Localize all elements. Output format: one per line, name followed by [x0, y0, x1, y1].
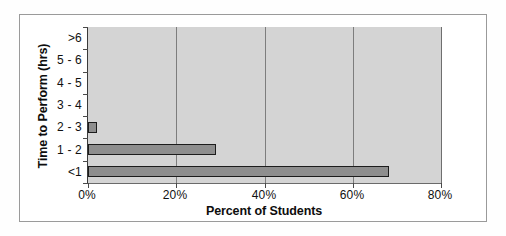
bar-row: [88, 138, 442, 160]
y-tick-label: 2 - 3: [40, 116, 86, 138]
bar-lt1: [88, 166, 389, 177]
x-tick-label: 60%: [340, 188, 365, 202]
y-tick-label: <1: [40, 161, 86, 183]
bar-row: [88, 49, 442, 71]
y-tick-label: 5 - 6: [40, 49, 86, 71]
x-axis-tick-labels: 0% 20% 40% 60% 80%: [87, 188, 441, 204]
x-axis-title: Percent of Students: [87, 204, 441, 218]
y-tick-label: 3 - 4: [40, 94, 86, 116]
bar-row: [88, 94, 442, 116]
y-tick-label: >6: [40, 27, 86, 49]
x-tick-label: 40%: [252, 188, 277, 202]
bar-row: [88, 161, 442, 183]
bar-series: [88, 27, 442, 183]
bar-row: [88, 116, 442, 138]
x-tick-label: 0%: [78, 188, 96, 202]
bar-1-2: [88, 144, 216, 155]
bar-row: [88, 72, 442, 94]
x-tick-label: 80%: [428, 188, 453, 202]
y-axis-tick-labels: >6 5 - 6 4 - 5 3 - 4 2 - 3 1 - 2 <1: [40, 27, 86, 183]
bar-row: [88, 27, 442, 49]
chart-figure: Time to Perform (hrs) >6 5 - 6 4 - 5 3 -…: [0, 0, 506, 236]
y-tick-label: 4 - 5: [40, 72, 86, 94]
chart-frame: Time to Perform (hrs) >6 5 - 6 4 - 5 3 -…: [19, 14, 487, 222]
bar-2-3: [88, 122, 97, 133]
plot-area: [87, 27, 442, 184]
x-tick-label: 20%: [163, 188, 188, 202]
y-tick-label: 1 - 2: [40, 138, 86, 160]
